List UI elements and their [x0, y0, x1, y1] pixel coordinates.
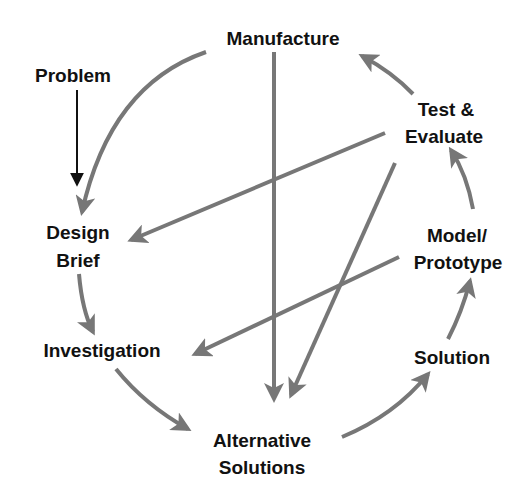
node-model-prototype-line2: Prototype: [414, 252, 503, 273]
node-investigation: Investigation: [43, 340, 160, 361]
arrow-test-evaluate-to-manufacture: [362, 56, 413, 94]
arrow-investigation-to-alternative-solutions: [116, 369, 188, 429]
design-cycle-diagram: Manufacture Problem Test & Evaluate Desi…: [0, 0, 532, 502]
arrow-model-prototype-to-test-evaluate: [451, 150, 473, 209]
diagram-canvas: Manufacture Problem Test & Evaluate Desi…: [0, 0, 532, 502]
node-alternative-solutions-line1: Alternative: [213, 430, 311, 451]
arrow-design-brief-to-investigation: [79, 274, 93, 332]
node-alternative-solutions-line2: Solutions: [219, 457, 306, 478]
node-solution: Solution: [414, 347, 490, 368]
arrow-alternative-solutions-to-solution: [342, 374, 428, 437]
node-test-evaluate-line2: Evaluate: [405, 126, 483, 147]
arrow-test-evaluate-to-design-brief: [131, 133, 385, 240]
node-design-brief-line2: Brief: [56, 250, 100, 271]
node-design-brief-line1: Design: [46, 222, 109, 243]
arrow-test-evaluate-to-alternative-solutions: [291, 163, 395, 395]
node-manufacture: Manufacture: [227, 28, 340, 49]
arrow-model-prototype-to-investigation: [195, 257, 399, 354]
arrow-solution-to-model-prototype: [448, 281, 470, 339]
node-model-prototype-line1: Model/: [427, 225, 488, 246]
node-problem: Problem: [35, 65, 111, 86]
node-test-evaluate-line1: Test &: [418, 99, 475, 120]
